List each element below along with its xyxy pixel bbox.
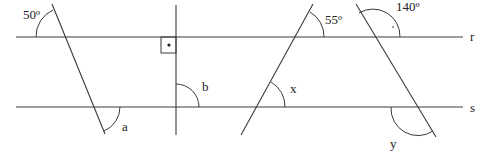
angle-arc-140	[359, 9, 400, 37]
angle-label-b: b	[202, 79, 209, 94]
transversal-1	[52, 4, 105, 134]
angle-label-x: x	[290, 81, 297, 96]
angle-140-dot	[392, 26, 394, 28]
right-angle-dot	[167, 43, 170, 46]
angle-label-55: 55º	[325, 12, 342, 27]
angle-label-y: y	[390, 136, 397, 151]
parallel-lines-transversals-diagram: r s 50º a b 55º x 140º y	[0, 0, 485, 151]
transversal-4	[356, 4, 436, 137]
angle-arc-x	[271, 82, 285, 107]
line-s-label: s	[470, 100, 475, 115]
angle-label-a: a	[122, 119, 128, 134]
angle-label-50: 50º	[23, 7, 40, 22]
angle-arc-a	[104, 107, 120, 131]
line-r-label: r	[470, 29, 475, 44]
angle-label-140: 140º	[396, 0, 420, 14]
angle-arc-55	[310, 12, 324, 37]
angle-arc-b	[176, 84, 199, 107]
transversal-3	[241, 4, 313, 135]
